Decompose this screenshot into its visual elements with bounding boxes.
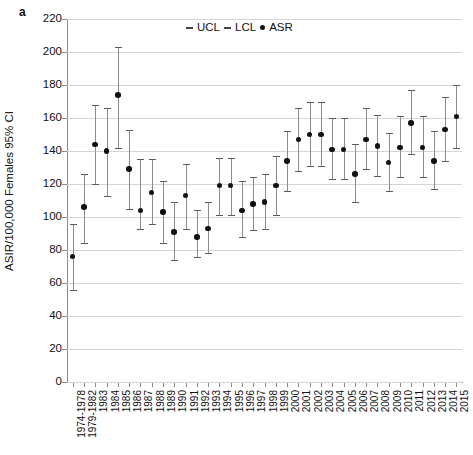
asr-data-point[interactable] <box>386 160 392 166</box>
asr-data-point[interactable] <box>352 171 358 177</box>
x-tick-label: 2015 <box>460 390 470 412</box>
x-tick-mark <box>389 383 390 387</box>
asr-data-point[interactable] <box>262 199 268 205</box>
x-tick-mark <box>118 383 119 387</box>
lcl-cap-marker <box>329 179 336 180</box>
asr-data-point[interactable] <box>329 147 335 153</box>
asr-data-point[interactable] <box>296 137 302 143</box>
y-tick: 220 <box>22 13 62 25</box>
x-tick-mark <box>276 383 277 387</box>
x-tick-label: 1983 <box>99 390 109 412</box>
plot-area <box>67 19 462 382</box>
asr-data-point[interactable] <box>454 114 460 120</box>
gridline <box>67 250 462 251</box>
lcl-cap-marker <box>81 243 88 244</box>
y-tick: 20 <box>22 343 62 355</box>
asr-data-point[interactable] <box>228 183 234 189</box>
x-tick-label: 1995 <box>235 390 245 412</box>
ucl-cap-marker <box>194 210 201 211</box>
lcl-cap-marker <box>374 176 381 177</box>
y-tick-label: 0 <box>28 376 62 388</box>
x-tick-label: 2011 <box>415 390 425 412</box>
ucl-cap-marker <box>171 202 178 203</box>
asr-data-point[interactable] <box>205 226 211 232</box>
gridline <box>67 52 462 53</box>
gridline <box>67 349 462 350</box>
asr-data-point[interactable] <box>194 234 200 240</box>
asr-data-point[interactable] <box>397 145 403 151</box>
asr-data-point[interactable] <box>115 92 121 98</box>
asr-data-point[interactable] <box>171 229 177 235</box>
asr-data-point[interactable] <box>149 190 155 196</box>
ucl-cap-marker <box>228 158 235 159</box>
gridline <box>67 118 462 119</box>
x-tick-mark <box>400 383 401 387</box>
gridline <box>67 283 462 284</box>
ucl-cap-marker <box>104 108 111 109</box>
x-tick-label: 1990 <box>178 390 188 412</box>
lcl-cap-marker <box>431 189 438 190</box>
x-tick-label: 1991 <box>190 390 200 412</box>
y-tick: 180 <box>22 79 62 91</box>
asr-data-point[interactable] <box>375 143 381 149</box>
x-tick-label: 1979-1982 <box>88 390 98 438</box>
x-tick-mark <box>298 383 299 387</box>
lcl-cap-marker <box>126 209 133 210</box>
lcl-cap-marker <box>171 260 178 261</box>
y-tick-label: 120 <box>28 178 62 190</box>
y-tick-label: 60 <box>28 277 62 289</box>
lcl-cap-marker <box>70 290 77 291</box>
x-tick-mark <box>332 383 333 387</box>
asr-data-point[interactable] <box>284 158 290 164</box>
asr-data-point[interactable] <box>250 201 256 207</box>
x-tick-label: 1988 <box>156 390 166 412</box>
asr-data-point[interactable] <box>126 166 132 172</box>
x-tick-label: 1984 <box>111 390 121 412</box>
asr-data-point[interactable] <box>138 208 144 214</box>
asr-data-point[interactable] <box>307 132 313 138</box>
ucl-cap-marker <box>420 116 427 117</box>
x-tick-mark <box>321 383 322 387</box>
x-tick-label: 2005 <box>348 390 358 412</box>
asr-data-point[interactable] <box>104 148 110 154</box>
asr-data-point[interactable] <box>442 127 448 133</box>
gridline <box>67 151 462 152</box>
asr-data-point[interactable] <box>92 142 98 148</box>
lcl-cap-marker <box>352 202 359 203</box>
x-tick-label: 1996 <box>246 390 256 412</box>
asr-data-point[interactable] <box>318 132 324 138</box>
asr-data-point[interactable] <box>273 183 279 189</box>
lcl-cap-marker <box>397 177 404 178</box>
lcl-cap-marker <box>250 230 257 231</box>
asr-data-point[interactable] <box>363 137 369 143</box>
asr-data-point[interactable] <box>420 145 426 151</box>
asr-data-point[interactable] <box>239 208 245 214</box>
asr-data-point[interactable] <box>408 120 414 126</box>
gridline <box>67 316 462 317</box>
y-tick-label: 100 <box>28 211 62 223</box>
ucl-cap-marker <box>250 177 257 178</box>
asr-data-point[interactable] <box>70 254 76 260</box>
ucl-cap-marker <box>408 90 415 91</box>
x-tick-mark <box>163 383 164 387</box>
asr-data-point[interactable] <box>217 183 223 189</box>
y-tick: 60 <box>22 277 62 289</box>
asr-data-point[interactable] <box>160 209 166 215</box>
asr-data-point[interactable] <box>183 193 189 199</box>
y-tick-label: 180 <box>28 79 62 91</box>
x-tick-label: 1999 <box>280 390 290 412</box>
x-tick-mark <box>208 383 209 387</box>
ucl-cap-marker <box>126 130 133 131</box>
lcl-cap-marker <box>420 177 427 178</box>
ucl-cap-marker <box>81 174 88 175</box>
ucl-cap-marker <box>374 115 381 116</box>
ucl-cap-marker <box>329 118 336 119</box>
lcl-cap-marker <box>442 161 449 162</box>
lcl-cap-marker <box>149 224 156 225</box>
ucl-cap-marker <box>273 156 280 157</box>
y-tick-label: 220 <box>28 13 62 25</box>
ucl-cap-marker <box>397 116 404 117</box>
asr-data-point[interactable] <box>431 158 437 164</box>
x-tick-label: 2001 <box>302 390 312 412</box>
asr-data-point[interactable] <box>81 204 87 210</box>
